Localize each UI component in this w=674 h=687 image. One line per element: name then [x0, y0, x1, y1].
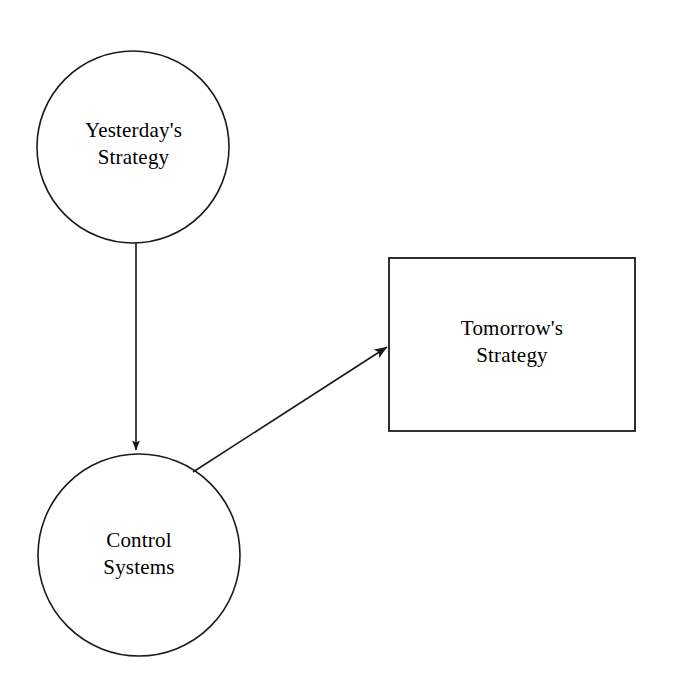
node-tomorrows-strategy[interactable] [389, 258, 635, 431]
diagram-canvas: Yesterday's Strategy Control Systems Tom… [0, 0, 674, 687]
node-yesterdays-strategy[interactable] [37, 51, 229, 243]
node-control-systems[interactable] [38, 454, 240, 656]
edge-control-to-tomorrow [193, 347, 387, 472]
diagram-graphics [0, 0, 674, 687]
